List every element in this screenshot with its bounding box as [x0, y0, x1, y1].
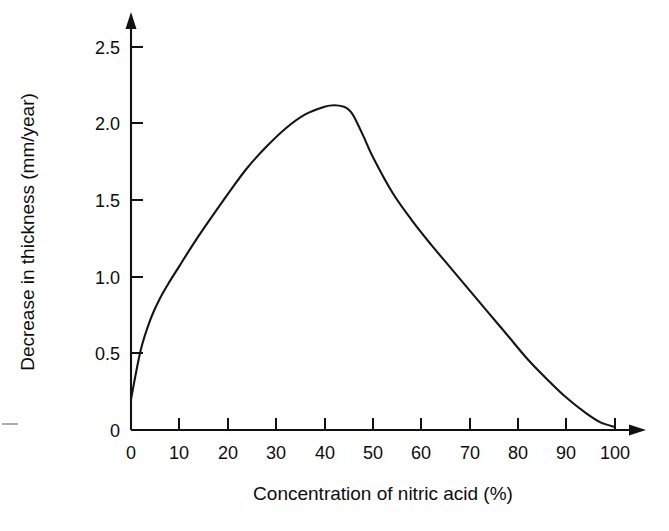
y-tick-label-2.0: 2.0	[95, 114, 120, 134]
y-tick-label-2.5: 2.5	[95, 38, 120, 58]
x-tick-label-20: 20	[218, 443, 238, 463]
x-tick-label-60: 60	[411, 443, 431, 463]
x-tick-label-90: 90	[556, 443, 576, 463]
x-tick-label-0: 0	[126, 443, 136, 463]
x-tick-label-30: 30	[266, 443, 286, 463]
x-tick-label-100: 100	[600, 443, 630, 463]
x-tick-label-40: 40	[315, 443, 335, 463]
y-axis-title: Decrease in thickness (mm/year)	[17, 93, 38, 371]
y-tick-label-1.5: 1.5	[95, 191, 120, 211]
corrosion-rate-line-chart: 2.5 2.0 1.5 1.0 0.5 0 0 10 20 30 40 50 6…	[0, 0, 669, 531]
x-tick-label-50: 50	[363, 443, 383, 463]
x-tick-label-80: 80	[508, 443, 528, 463]
y-tick-label-0.5: 0.5	[95, 344, 120, 364]
y-tick-label-1.0: 1.0	[95, 268, 120, 288]
y-tick-label-0: 0	[110, 421, 120, 441]
x-tick-label-10: 10	[169, 443, 189, 463]
x-tick-label-70: 70	[460, 443, 480, 463]
x-axis-title: Concentration of nitric acid (%)	[253, 483, 513, 504]
